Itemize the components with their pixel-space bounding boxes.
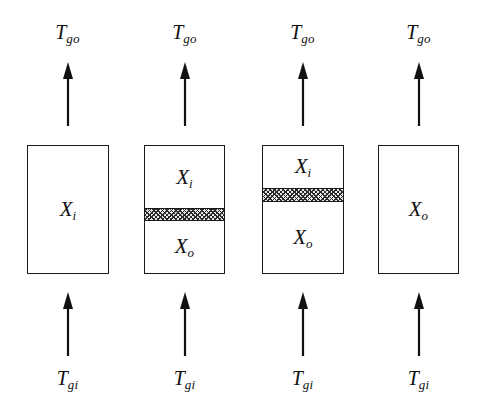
region-reacted: Xo [263, 202, 343, 273]
solid-particle-box: Xi Xo [144, 145, 225, 274]
region-reacted: Xo [379, 146, 458, 273]
solid-particle-box: Xi [27, 145, 109, 274]
reaction-front-hatched-band [145, 208, 224, 221]
stage-2: Tgo Xi Xo Tgi [125, 0, 244, 410]
stage-1: Tgo Xi Tgi [8, 0, 127, 410]
region-unreacted-label: Xi [295, 156, 312, 177]
reaction-front-progression-diagram: Tgo Xi Tgi Tgo Xi Xo [0, 0, 481, 410]
region-unreacted-label: Xi [176, 167, 193, 188]
reaction-front-hatched-band [263, 188, 343, 202]
region-unreacted-label: Xi [60, 199, 77, 220]
gas-outlet-temperature-label: Tgo [359, 22, 478, 42]
region-unreacted: Xi [145, 146, 224, 208]
region-reacted-label: Xo [409, 199, 429, 220]
region-unreacted: Xi [263, 146, 343, 188]
stage-4: Tgo Xo Tgi [359, 0, 478, 410]
gas-outlet-temperature-label: Tgo [8, 22, 127, 42]
stage-3: Tgo Xi Xo Tgi [243, 0, 362, 410]
gas-outlet-temperature-label: Tgo [125, 22, 244, 42]
gas-inlet-temperature-label: Tgi [125, 368, 244, 388]
gas-inlet-temperature-label: Tgi [359, 368, 478, 388]
gas-inlet-temperature-label: Tgi [8, 368, 127, 388]
solid-particle-box: Xo [378, 145, 459, 274]
region-reacted-label: Xo [293, 227, 313, 248]
gas-inlet-temperature-label: Tgi [243, 368, 362, 388]
gas-outlet-temperature-label: Tgo [243, 22, 362, 42]
region-reacted-label: Xo [175, 236, 195, 257]
solid-particle-box: Xi Xo [262, 145, 344, 274]
region-reacted: Xo [145, 221, 224, 273]
region-unreacted: Xi [28, 146, 108, 273]
